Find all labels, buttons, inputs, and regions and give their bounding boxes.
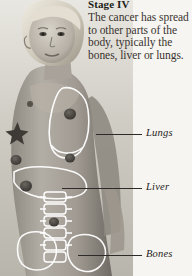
callout-label-bones: Bones: [146, 248, 173, 259]
stage-iv-illustration-page: có: [0, 0, 192, 276]
tumor-spot-liver: [20, 181, 32, 192]
heading-stage-label: Stage: [88, 0, 114, 10]
tumor-spot-flank: [11, 155, 22, 165]
leader-line-liver: [62, 188, 142, 189]
head: [22, 0, 84, 66]
tumor-spot-spine: [49, 218, 59, 227]
article-body-text: The cancer has spread to other parts of …: [88, 11, 190, 61]
callout-label-liver: Liver: [146, 181, 169, 192]
leader-line-lungs: [96, 134, 142, 135]
tumor-spot-lung: [64, 109, 76, 120]
heading-stage-numeral: IV: [117, 0, 129, 10]
page-title: Stage IV: [88, 0, 190, 10]
leader-line-bones: [78, 255, 142, 256]
tumor-spot-shoulder: [27, 101, 33, 107]
article-text-column: Stage IV The cancer has spread to other …: [88, 0, 190, 61]
callout-label-lungs: Lungs: [146, 127, 173, 138]
tumor-spot-lower-lung: [65, 154, 75, 163]
